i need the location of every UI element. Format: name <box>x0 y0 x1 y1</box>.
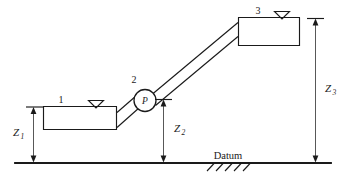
datum-label: Datum <box>214 150 243 161</box>
dimension-z3-label: Z <box>325 82 332 94</box>
pump-letter-label: P <box>141 96 148 106</box>
dimension-z1: Z 1 <box>13 107 44 163</box>
dimension-z2-label: Z <box>174 122 181 134</box>
node-label-3: 3 <box>256 5 261 16</box>
dimension-z3-subscript: 3 <box>332 88 337 97</box>
pump-system-diagram: 1 3 P 2 Datu <box>0 0 349 181</box>
node-label-1: 1 <box>59 94 64 105</box>
node-label-2: 2 <box>132 74 137 85</box>
discharge-pipe <box>153 23 239 106</box>
reservoir-1-tank <box>43 107 117 131</box>
dimension-z3: Z 3 <box>307 19 337 163</box>
dimension-z2: Z 2 <box>155 100 186 163</box>
pump-symbol: P <box>134 90 156 112</box>
reservoir-3-tank <box>238 18 300 47</box>
dimension-z1-label: Z <box>13 126 20 138</box>
datum-hatching <box>207 164 250 172</box>
diagram-canvas: 1 3 P 2 Datu <box>0 0 349 181</box>
dimension-z2-subscript: 2 <box>182 128 186 137</box>
dimension-z1-subscript: 1 <box>21 132 25 141</box>
